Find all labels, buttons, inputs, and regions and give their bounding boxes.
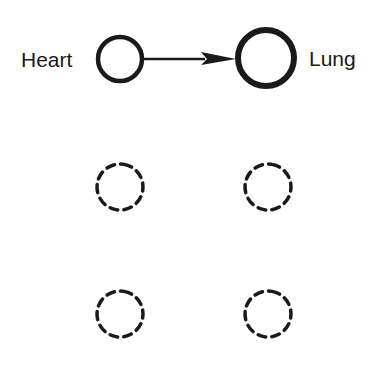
empty-node-3 xyxy=(93,287,146,340)
empty-node-4 xyxy=(241,287,294,340)
arrowhead-icon xyxy=(201,52,236,65)
diagram-canvas: Heart Lung xyxy=(0,0,381,371)
lung-node xyxy=(238,30,294,86)
empty-node-1 xyxy=(93,160,146,213)
empty-node-2 xyxy=(241,160,294,213)
heart-label: Heart xyxy=(21,48,73,71)
lung-label: Lung xyxy=(309,47,356,70)
heart-node xyxy=(98,37,142,81)
